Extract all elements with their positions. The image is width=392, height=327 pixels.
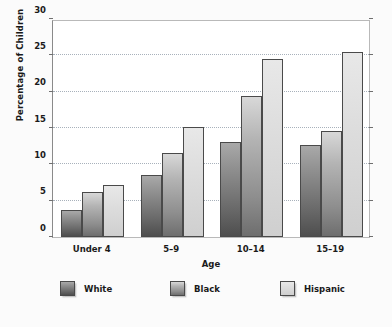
- y-tick-mark: [369, 54, 373, 55]
- bar[interactable]: [183, 127, 204, 237]
- bar[interactable]: [103, 185, 124, 237]
- bar[interactable]: [61, 210, 82, 237]
- y-tick-mark: [369, 127, 373, 128]
- bar-group: [141, 21, 204, 237]
- x-axis-title: Age: [52, 259, 370, 269]
- y-tick-label: 20: [34, 77, 46, 87]
- bar[interactable]: [82, 192, 103, 237]
- x-tick-label: Under 4: [52, 244, 132, 254]
- legend-swatch-icon: [60, 281, 75, 296]
- y-tick-mark: [369, 163, 373, 164]
- legend-swatch-icon: [170, 281, 185, 296]
- x-tick-label: 5–9: [132, 244, 212, 254]
- y-tick-label: 10: [34, 150, 46, 160]
- y-tick-label: 0: [40, 223, 46, 233]
- y-tick-mark: [369, 236, 373, 237]
- legend-item[interactable]: White: [60, 281, 112, 296]
- bar[interactable]: [300, 145, 321, 237]
- x-tick-label: 15–19: [291, 244, 371, 254]
- plot-area: 051015202530: [52, 20, 370, 238]
- chart-legend: WhiteBlackHispanic: [52, 281, 370, 303]
- y-tick-label: 30: [34, 5, 46, 15]
- y-tick-label: 5: [40, 186, 46, 196]
- y-tick-mark: [369, 200, 373, 201]
- legend-item[interactable]: Hispanic: [280, 281, 345, 296]
- legend-label: White: [84, 284, 112, 294]
- bar[interactable]: [162, 153, 183, 237]
- y-tick-label: 25: [34, 41, 46, 51]
- y-tick-label: 15: [34, 114, 46, 124]
- legend-swatch-icon: [280, 281, 295, 296]
- legend-label: Black: [194, 284, 220, 294]
- bar[interactable]: [141, 175, 162, 237]
- legend-item[interactable]: Black: [170, 281, 220, 296]
- y-tick-mark: [369, 91, 373, 92]
- bar[interactable]: [321, 131, 342, 237]
- bar[interactable]: [241, 96, 262, 237]
- x-tick-label: 10–14: [211, 244, 291, 254]
- bar-group: [220, 21, 283, 237]
- bar-chart: Percentage of Children 051015202530 Unde…: [0, 0, 392, 327]
- y-tick-mark: [49, 18, 53, 19]
- bar-group: [61, 21, 124, 237]
- bar[interactable]: [220, 142, 241, 237]
- legend-label: Hispanic: [304, 284, 345, 294]
- y-tick-mark: [369, 18, 373, 19]
- bar-group: [300, 21, 363, 237]
- bar[interactable]: [342, 52, 363, 237]
- y-axis-title: Percentage of Children: [15, 0, 25, 145]
- bar[interactable]: [262, 59, 283, 237]
- bars-layer: [53, 21, 369, 237]
